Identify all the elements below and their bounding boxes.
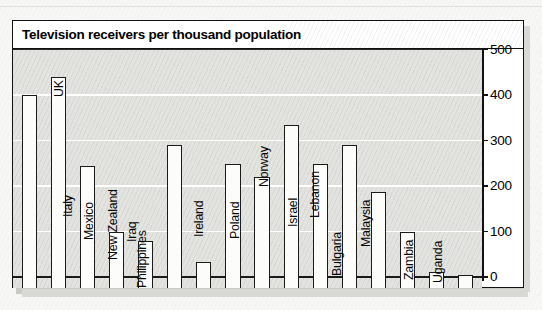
title-bar-texture [288,21,523,48]
plot-area: FranceUKItalyMexicoIraqNew ZealandPhilip… [13,49,482,288]
y-axis-spine [482,49,484,281]
y-axis: 5004003002001000 [482,49,525,288]
y-tick-label-200: 200 [490,179,512,193]
chart-panel: Television receivers per thousand popula… [12,20,524,288]
chart-title: Television receivers per thousand popula… [13,27,301,42]
bar-label-uk: UK [52,83,66,97]
y-tick-0 [482,276,488,278]
bar-philippines[interactable]: Philippines [196,262,211,288]
bar-france[interactable]: France [22,95,37,288]
figure-root: Television receivers per thousand popula… [0,0,542,310]
y-tick-label-500: 500 [490,43,512,57]
bar-label-france: France [13,115,37,157]
panel-bottom-shadow [22,289,528,297]
y-tick-500 [482,49,488,51]
y-tick-label-0: 0 [490,270,497,284]
bar-label-lebanon: Lebanon [308,169,357,218]
scan-artifact-line [0,6,542,7]
y-tick-100 [482,231,488,233]
y-tick-label-400: 400 [490,88,512,102]
y-tick-200 [482,185,488,187]
bar-uganda[interactable]: Uganda [458,275,473,289]
bar-poland[interactable]: Poland [254,177,269,288]
bar-label-poland: Poland [228,197,270,239]
chart-title-bar: Television receivers per thousand popula… [13,21,523,49]
bars-group: FranceUKItalyMexicoIraqNew ZealandPhilip… [13,49,482,288]
plot-region: FranceUKItalyMexicoIraqNew ZealandPhilip… [13,49,523,287]
y-tick-label-100: 100 [490,225,512,239]
bar-label-norway: Norway [257,145,299,187]
bar-label-uganda: Uganda [431,241,473,283]
y-tick-300 [482,140,488,142]
y-tick-label-300: 300 [490,134,512,148]
y-tick-400 [482,94,488,96]
